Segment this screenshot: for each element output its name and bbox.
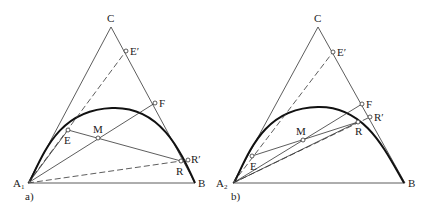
diagram-a (28, 27, 195, 183)
dashed-a-rprime-a (28, 160, 188, 183)
label-r-a: R (176, 165, 184, 177)
dashed-a-eprime-a (28, 51, 126, 183)
label-eprime-a: E′ (130, 45, 139, 57)
label-r-b: R (355, 125, 363, 137)
point-eprime-a (124, 49, 128, 53)
caption-b: b) (231, 190, 241, 203)
point-rprime-b (368, 115, 372, 119)
point-f-b (360, 102, 364, 106)
label-c-a: C (107, 12, 114, 24)
point-f-a (153, 101, 157, 105)
point-m-b (301, 138, 305, 142)
binodal-curve-a (30, 108, 195, 183)
label-rprime-b: R′ (374, 111, 384, 123)
label-m-a: M (93, 123, 103, 135)
label-e-a: E (64, 134, 71, 146)
line-a-e-a (30, 130, 68, 181)
label-rprime-a: R′ (191, 153, 201, 165)
diagram-b (233, 27, 405, 183)
label-a2: A2 (216, 177, 228, 191)
point-r-a (179, 159, 183, 163)
label-f-b: F (366, 98, 372, 110)
label-c-b: C (314, 12, 321, 24)
label-eprime-b: E′ (337, 46, 346, 58)
point-rprime-a (186, 158, 190, 162)
point-e-a (66, 128, 70, 132)
point-m-a (96, 136, 100, 140)
triangle-b (233, 27, 405, 183)
ternary-diagrams: C E′ F M E R′ R B A1 a) C E′ F M E R′ R … (0, 0, 432, 209)
point-eprime-b (331, 50, 335, 54)
triangle-a (28, 27, 195, 183)
caption-a: a) (25, 190, 34, 203)
label-f-a: F (159, 97, 165, 109)
label-e-b: E (250, 160, 257, 172)
tie-line-er-a (68, 130, 181, 161)
dashed-a-eprime-b (233, 52, 333, 183)
point-r-b (356, 120, 360, 124)
point-e-b (250, 154, 254, 158)
label-b-a: B (198, 177, 205, 189)
line-a-f-a (28, 103, 155, 183)
label-b-b: B (408, 177, 415, 189)
label-a1: A1 (13, 177, 25, 191)
label-m-b: M (296, 125, 306, 137)
